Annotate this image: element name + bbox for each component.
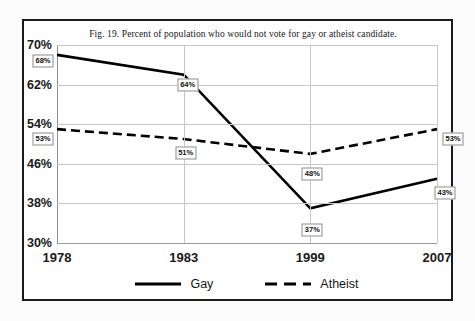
data-point-label: 43% bbox=[434, 186, 455, 199]
data-point-label: 53% bbox=[442, 133, 463, 146]
x-gridline bbox=[310, 45, 311, 243]
y-axis-tick-label: 46% bbox=[27, 157, 52, 171]
chart-title: Fig. 19. Percent of population who would… bbox=[48, 29, 438, 39]
y-gridline bbox=[57, 203, 437, 204]
data-point-label: 37% bbox=[302, 224, 323, 237]
data-point-label: 64% bbox=[177, 78, 198, 91]
data-point-label: 68% bbox=[32, 54, 53, 67]
legend-label: Atheist bbox=[320, 277, 358, 291]
data-point-label: 51% bbox=[175, 147, 196, 160]
y-axis-tick-label: 54% bbox=[27, 117, 52, 131]
data-point-label: 53% bbox=[32, 133, 53, 146]
x-axis-tick-label: 2007 bbox=[423, 250, 452, 265]
solid-line-swatch-icon bbox=[135, 280, 181, 288]
x-axis-tick-label: 1983 bbox=[169, 250, 198, 265]
legend-entry-gay: Gay bbox=[135, 277, 213, 291]
y-axis-tick-label: 38% bbox=[27, 196, 52, 210]
x-gridline bbox=[184, 45, 185, 243]
y-gridline bbox=[57, 164, 437, 165]
series-line-gay bbox=[57, 55, 437, 208]
series-lines bbox=[57, 45, 437, 243]
legend-entry-atheist: Atheist bbox=[265, 277, 358, 291]
y-gridline bbox=[57, 124, 437, 125]
y-axis-tick-label: 62% bbox=[27, 78, 52, 92]
y-axis-tick-label: 70% bbox=[27, 38, 52, 52]
x-axis-tick-label: 1999 bbox=[296, 250, 325, 265]
data-point-label: 48% bbox=[302, 167, 323, 180]
x-axis-tick-label: 1978 bbox=[43, 250, 72, 265]
y-gridline bbox=[57, 243, 437, 244]
plot-area: 30%38%46%54%62%70%197819831999200768%64%… bbox=[57, 45, 437, 243]
y-gridline bbox=[57, 45, 437, 46]
chart-legend: GayAtheist bbox=[57, 277, 437, 291]
legend-label: Gay bbox=[190, 277, 213, 291]
y-axis-tick-label: 30% bbox=[27, 236, 52, 250]
dashed-line-swatch-icon bbox=[265, 280, 311, 288]
x-gridline bbox=[437, 45, 438, 243]
y-gridline bbox=[57, 85, 437, 86]
